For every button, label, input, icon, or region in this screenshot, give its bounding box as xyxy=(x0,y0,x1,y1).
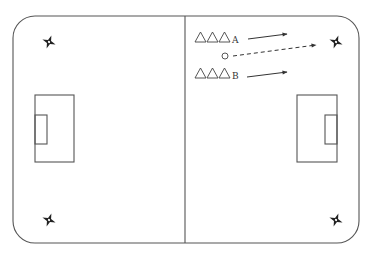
cone-star-icon-bottom-left xyxy=(40,211,58,229)
player-triangle-icon xyxy=(207,68,218,78)
player-triangle-icon xyxy=(195,68,206,78)
player-triangle-icon xyxy=(219,68,230,78)
player-triangle-icon xyxy=(195,32,206,42)
group-a: A xyxy=(195,32,287,45)
goal-box-right xyxy=(325,115,337,144)
penalty-box-right xyxy=(297,95,337,162)
penalty-box-left xyxy=(35,95,74,162)
goal-box-left xyxy=(35,115,47,144)
run-arrow-b xyxy=(247,72,287,77)
group-b: B xyxy=(195,68,287,81)
run-arrow-a xyxy=(248,34,287,39)
cone-star-icon-top-right xyxy=(327,33,345,51)
cone-star-icon-top-left xyxy=(40,33,58,51)
player-triangle-icon xyxy=(219,32,230,42)
group-b-label: B xyxy=(232,71,239,81)
cone-star-icon-bottom-right xyxy=(327,211,345,229)
pitch-outline xyxy=(13,16,359,243)
ball-pass xyxy=(222,45,316,59)
group-a-label: A xyxy=(231,35,239,45)
ball-icon xyxy=(222,53,228,59)
pass-arrow-dashed xyxy=(233,45,316,56)
soccer-drill-diagram: A B xyxy=(0,0,369,255)
player-triangle-icon xyxy=(207,32,218,42)
